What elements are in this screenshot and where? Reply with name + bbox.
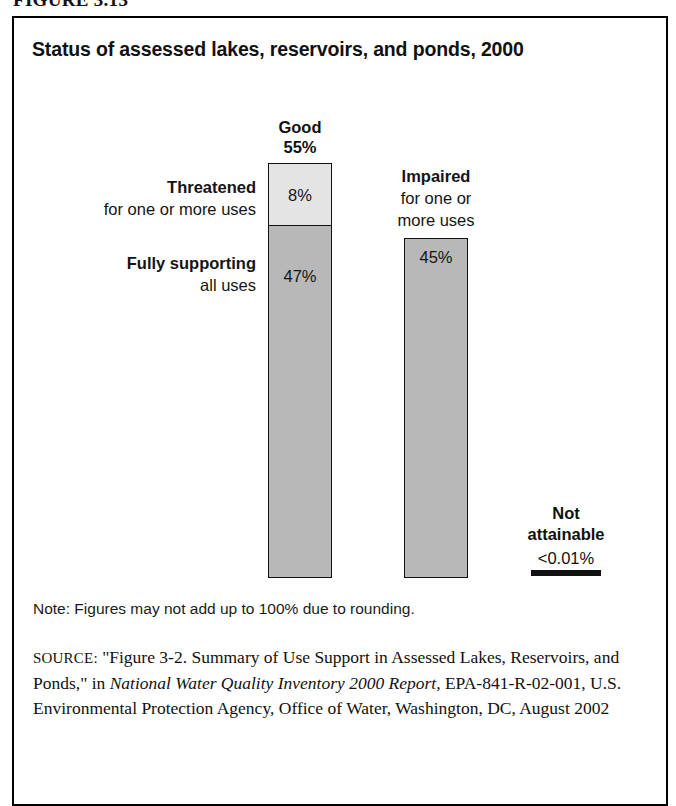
label-good-head: Good (278, 118, 321, 136)
label-good: Good 55% (258, 117, 342, 157)
label-good-percent: 55% (283, 138, 316, 156)
label-not-attainable-head-line1: Not (506, 503, 626, 524)
label-not-attainable: Not attainable <0.01% (506, 503, 626, 569)
bar-value-not-attainable: <0.01% (506, 548, 626, 569)
label-impaired-sub-line2: more uses (397, 211, 474, 229)
bar-value-fully-supporting: 47% (268, 267, 332, 286)
label-impaired: Impaired for one or more uses (388, 165, 484, 231)
bar-chart: Good 55% 8% 47% Threatened for one or mo… (0, 0, 676, 600)
label-threatened-sub: for one or more uses (104, 200, 256, 218)
source-title-italic: National Water Quality Inventory 2000 Re… (110, 673, 441, 693)
bar-segment-not-attainable (531, 570, 601, 576)
label-fully-supporting: Fully supporting all uses (50, 252, 256, 296)
bar-value-impaired: 45% (404, 248, 468, 267)
label-fully-supporting-head: Fully supporting (50, 252, 256, 274)
label-threatened-head: Threatened (60, 176, 256, 198)
source-prefix: SOURCE: (33, 650, 98, 666)
bar-segment-impaired (404, 238, 468, 578)
chart-note: Note: Figures may not add up to 100% due… (33, 600, 415, 618)
label-impaired-head: Impaired (388, 165, 484, 187)
source-citation: SOURCE: "Figure 3-2. Summary of Use Supp… (33, 645, 633, 721)
label-not-attainable-head-line2: attainable (506, 524, 626, 545)
bar-value-threatened: 8% (268, 186, 332, 205)
label-fully-supporting-sub: all uses (200, 276, 256, 294)
label-impaired-sub-line1: for one or (401, 189, 472, 207)
label-threatened: Threatened for one or more uses (60, 176, 256, 220)
